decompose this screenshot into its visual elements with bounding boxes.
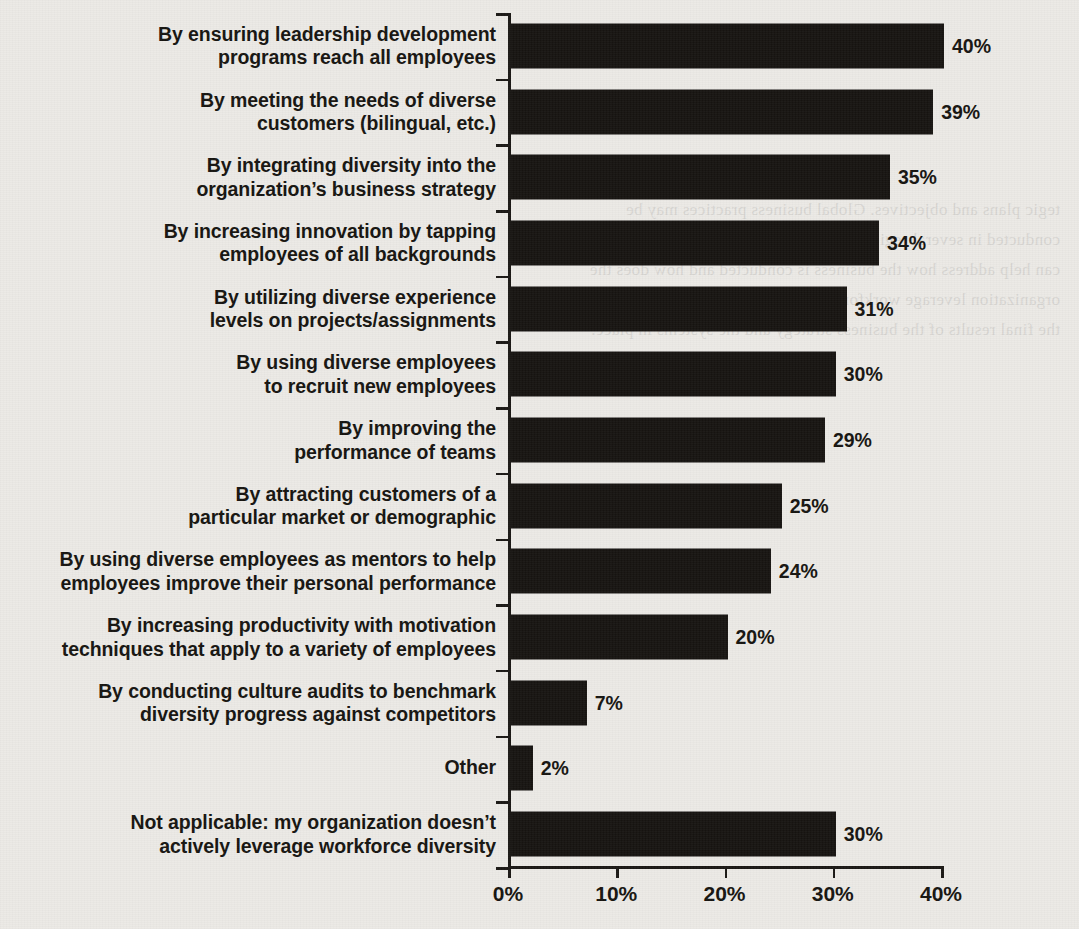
- y-axis-tick: [496, 13, 509, 16]
- bar[interactable]: [511, 286, 847, 331]
- horizontal-bar-chart: 0%10%20%30%40% By ensuring leadership de…: [0, 0, 1079, 929]
- y-axis-tick: [496, 276, 509, 279]
- x-axis-tick: [941, 866, 944, 878]
- bar[interactable]: [511, 418, 825, 463]
- bar-value-label: 40%: [952, 34, 991, 57]
- category-label: By conducting culture audits to benchmar…: [0, 679, 496, 726]
- bar-value-label: 30%: [844, 363, 883, 386]
- x-axis-tick-label: 20%: [703, 882, 745, 906]
- category-label: By using diverse employees to recruit ne…: [0, 351, 496, 398]
- bar[interactable]: [511, 615, 728, 660]
- category-label: Not applicable: my organization doesn’t …: [0, 811, 496, 858]
- bar[interactable]: [511, 483, 782, 528]
- x-axis-tick: [833, 866, 836, 878]
- bar-value-label: 35%: [898, 166, 937, 189]
- category-label: Other: [0, 757, 496, 781]
- y-axis-tick: [496, 341, 509, 344]
- bar[interactable]: [511, 352, 836, 397]
- bar[interactable]: [511, 549, 771, 594]
- bar-value-label: 20%: [736, 626, 775, 649]
- category-label: By meeting the needs of diverse customer…: [0, 88, 496, 135]
- bar[interactable]: [511, 812, 836, 857]
- bar[interactable]: [511, 746, 533, 791]
- category-label: By increasing innovation by tapping empl…: [0, 219, 496, 266]
- category-label: By integrating diversity into the organi…: [0, 154, 496, 201]
- y-axis-tick: [496, 670, 509, 673]
- y-axis-tick: [496, 144, 509, 147]
- bar[interactable]: [511, 89, 933, 134]
- y-axis-tick: [496, 473, 509, 476]
- x-axis-tick-label: 10%: [595, 882, 637, 906]
- bar-value-label: 31%: [855, 297, 894, 320]
- category-label: By ensuring leadership development progr…: [0, 22, 496, 69]
- bar-value-label: 25%: [790, 494, 829, 517]
- y-axis-tick: [496, 736, 509, 739]
- x-axis-tick-label: 40%: [920, 882, 962, 906]
- category-label: By using diverse employees as mentors to…: [0, 548, 496, 595]
- category-label: By improving the performance of teams: [0, 417, 496, 464]
- bar-value-label: 29%: [833, 429, 872, 452]
- bar-value-label: 39%: [941, 100, 980, 123]
- bar-value-label: 34%: [887, 231, 926, 254]
- bar[interactable]: [511, 23, 944, 68]
- category-label: By increasing productivity with motivati…: [0, 614, 496, 661]
- category-label: By attracting customers of a particular …: [0, 482, 496, 529]
- bar[interactable]: [511, 155, 890, 200]
- x-axis-tick: [508, 866, 511, 878]
- bar-value-label: 2%: [541, 757, 569, 780]
- y-axis-tick: [496, 539, 509, 542]
- bar[interactable]: [511, 220, 879, 265]
- y-axis-tick: [496, 210, 509, 213]
- category-label: By utilizing diverse experience levels o…: [0, 285, 496, 332]
- bar-value-label: 30%: [844, 823, 883, 846]
- x-axis-tick: [616, 866, 619, 878]
- x-axis-tick-label: 0%: [493, 882, 523, 906]
- bar-value-label: 7%: [595, 691, 623, 714]
- y-axis-tick: [496, 801, 509, 804]
- x-axis-tick-label: 30%: [812, 882, 854, 906]
- y-axis-tick: [496, 604, 509, 607]
- x-axis-tick: [725, 866, 728, 878]
- bar[interactable]: [511, 680, 587, 725]
- y-axis-tick: [496, 79, 509, 82]
- bar-value-label: 24%: [779, 560, 818, 583]
- y-axis-tick: [496, 407, 509, 410]
